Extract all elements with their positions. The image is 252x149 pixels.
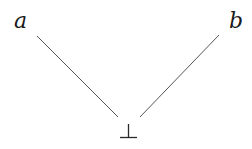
node-a-label: a (14, 8, 27, 33)
hasse-diagram: a b (0, 0, 252, 149)
node-bottom-symbol (120, 124, 137, 138)
node-b-label: b (229, 8, 243, 33)
edge-a-bottom (37, 36, 118, 117)
edge-b-bottom (140, 35, 219, 117)
